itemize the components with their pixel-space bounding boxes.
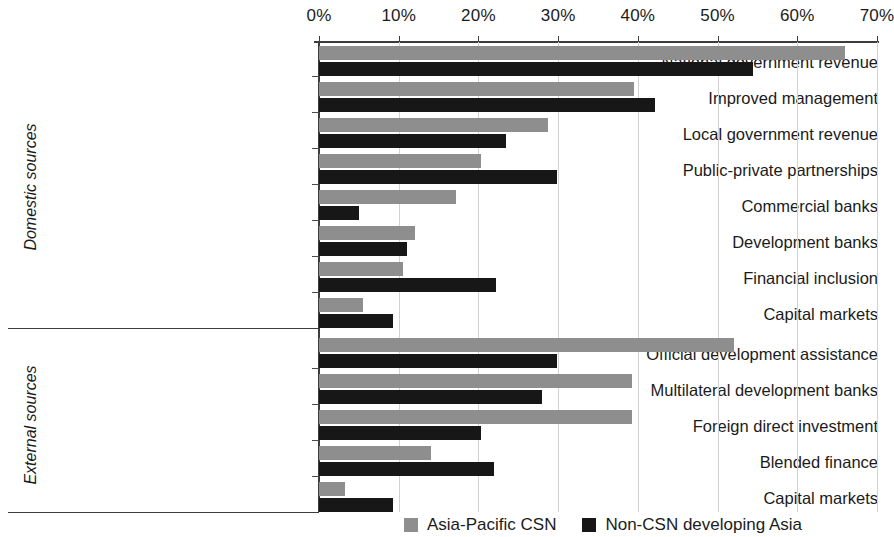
- bar: [319, 82, 634, 96]
- bar: [319, 390, 542, 404]
- y-tick-mark: [312, 476, 319, 477]
- x-tick-label: 30%: [541, 6, 576, 26]
- x-tick-label: 20%: [461, 6, 496, 26]
- bar: [319, 98, 655, 112]
- group-label: Domestic sources: [22, 123, 40, 250]
- bar: [319, 314, 393, 328]
- bar: [319, 118, 548, 132]
- bar: [319, 298, 363, 312]
- bar: [319, 374, 632, 388]
- bar: [319, 242, 407, 256]
- bar: [319, 426, 481, 440]
- bar: [319, 62, 753, 76]
- x-tick-label: 0%: [307, 6, 332, 26]
- y-tick-mark: [312, 184, 319, 185]
- group-separator: [8, 328, 319, 329]
- legend-item: Non-CSN developing Asia: [582, 515, 802, 535]
- y-tick-mark: [312, 148, 319, 149]
- plot-area: [319, 42, 877, 512]
- bar: [319, 462, 494, 476]
- y-tick-mark: [312, 76, 319, 77]
- bar: [319, 278, 496, 292]
- legend-item: Asia-Pacific CSN: [404, 515, 556, 535]
- y-tick-mark: [312, 256, 319, 257]
- legend-label: Asia-Pacific CSN: [427, 515, 556, 535]
- y-tick-mark: [312, 404, 319, 405]
- y-tick-mark: [312, 220, 319, 221]
- x-tick-label: 60%: [780, 6, 815, 26]
- bar: [319, 190, 456, 204]
- y-tick-mark: [312, 440, 319, 441]
- bar: [319, 226, 415, 240]
- x-tick-label: 40%: [621, 6, 656, 26]
- bar: [319, 262, 403, 276]
- gridline: [718, 42, 719, 512]
- chart-legend: Asia-Pacific CSNNon-CSN developing Asia: [404, 515, 802, 535]
- gridline: [558, 42, 559, 512]
- x-tick-label: 70%: [860, 6, 894, 26]
- x-tick-label: 10%: [381, 6, 416, 26]
- y-tick-mark: [312, 112, 319, 113]
- bar: [319, 338, 734, 352]
- gridline: [399, 42, 400, 512]
- bar: [319, 170, 557, 184]
- legend-swatch-icon: [404, 518, 418, 532]
- group-separator: [8, 512, 319, 513]
- gridline: [638, 42, 639, 512]
- bar: [319, 482, 345, 496]
- legend-swatch-icon: [582, 518, 596, 532]
- gridline: [877, 42, 878, 512]
- y-tick-mark: [312, 368, 319, 369]
- bar: [319, 446, 431, 460]
- group-label: External sources: [22, 365, 40, 484]
- bar: [319, 498, 393, 512]
- bar: [319, 46, 845, 60]
- bar: [319, 154, 481, 168]
- x-tick-label: 50%: [700, 6, 735, 26]
- bar: [319, 354, 557, 368]
- y-tick-mark: [312, 292, 319, 293]
- gridline: [797, 42, 798, 512]
- bar: [319, 134, 506, 148]
- legend-label: Non-CSN developing Asia: [605, 515, 802, 535]
- bar: [319, 410, 632, 424]
- gridline: [478, 42, 479, 512]
- bar: [319, 206, 359, 220]
